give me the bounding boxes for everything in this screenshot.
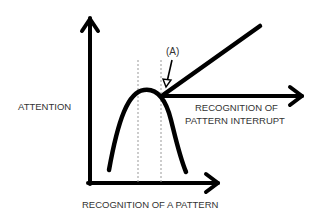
branch-label-line2: PATTERN INTERRUPT (185, 115, 285, 126)
pattern-curve (109, 90, 186, 172)
x-axis-label: RECOGNITION OF A PATTERN (82, 199, 218, 210)
rising-branch-line (163, 26, 260, 95)
y-axis-label: ATTENTION (18, 101, 71, 112)
attention-diagram: (A) ATTENTION RECOGNITION OF PATTERN INT… (0, 0, 330, 214)
point-a-pointer-head (163, 79, 171, 87)
branch-label-line1: RECOGNITION OF (195, 102, 278, 113)
point-a-label: (A) (166, 46, 179, 57)
point-a-pointer-line (167, 60, 172, 82)
